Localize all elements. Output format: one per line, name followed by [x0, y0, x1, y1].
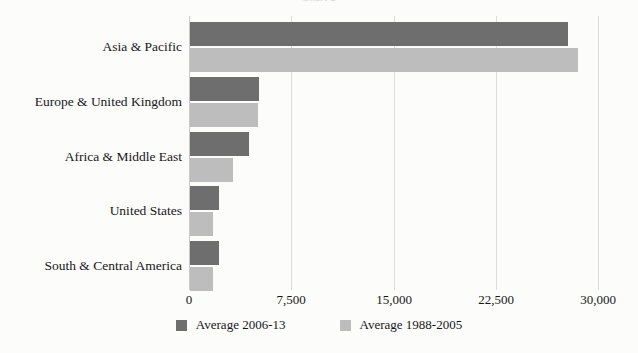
bar-group: [189, 241, 598, 291]
bar: [190, 103, 258, 127]
bar-group: [189, 77, 598, 127]
legend-swatch-average-1988-2005: [340, 320, 351, 331]
legend-item[interactable]: Average 1988-2005: [340, 317, 463, 333]
tick-label-22500: 22,500: [478, 292, 514, 308]
bar-chart: Chart 2 Asia & PacificEurope & United Ki…: [0, 0, 638, 353]
bar: [190, 158, 233, 182]
plot-area: [189, 16, 598, 290]
clipped-title-text: Chart 2: [0, 0, 638, 3]
bar-group: [189, 132, 598, 182]
legend-swatch-average-2006-13: [176, 320, 187, 331]
legend-label: Average 1988-2005: [360, 317, 463, 333]
category-label-africa-middle-east: Africa & Middle East: [0, 149, 182, 164]
bar: [190, 241, 219, 265]
tick-label-7500: 7,500: [276, 292, 305, 308]
clipped-title-remnant: Chart 2: [0, 0, 638, 7]
bar: [190, 267, 213, 291]
bar-group: [189, 22, 598, 72]
chart-legend: Average 2006-13Average 1988-2005: [0, 317, 638, 333]
bar: [190, 22, 568, 46]
bar: [190, 132, 249, 156]
value-axis-tick-labels: 07,50015,00022,50030,000: [0, 292, 638, 310]
legend-label: Average 2006-13: [196, 317, 286, 333]
bar: [190, 48, 578, 72]
category-label-asia-pacific: Asia & Pacific: [0, 39, 182, 54]
category-label-united-states: United States: [0, 203, 182, 218]
bar: [190, 77, 259, 101]
tick-label-0: 0: [186, 292, 193, 308]
tick-label-15000: 15,000: [376, 292, 412, 308]
bar: [190, 212, 213, 236]
bar: [190, 186, 219, 210]
tick-label-30000: 30,000: [580, 292, 616, 308]
category-label-europe-united-kingdom: Europe & United Kingdom: [0, 94, 182, 109]
legend-item[interactable]: Average 2006-13: [176, 317, 286, 333]
gridline-30000: [598, 16, 599, 290]
bar-group: [189, 186, 598, 236]
category-label-south-central-america: South & Central America: [0, 258, 182, 273]
